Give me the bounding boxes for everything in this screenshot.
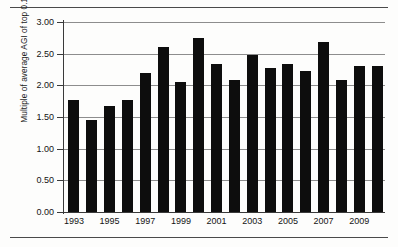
gridline xyxy=(64,212,385,213)
bar xyxy=(193,38,204,212)
y-axis-tick xyxy=(57,149,64,150)
y-axis-tick-label: 0.50 xyxy=(16,175,54,185)
x-axis-tick-label: 1995 xyxy=(93,216,127,226)
bar xyxy=(211,64,222,212)
x-axis-tick-label: 2009 xyxy=(342,216,376,226)
gridline xyxy=(64,22,385,23)
plot-area xyxy=(64,22,385,212)
bar xyxy=(104,106,115,212)
x-axis-tick-label: 1993 xyxy=(57,216,91,226)
x-axis-tick-label: 1999 xyxy=(164,216,198,226)
x-axis-tick-label: 2007 xyxy=(307,216,341,226)
x-axis-tick-label: 2001 xyxy=(200,216,234,226)
bar xyxy=(372,66,383,212)
bar xyxy=(282,64,293,212)
y-axis-tick-label: 2.50 xyxy=(16,49,54,59)
bar xyxy=(68,100,79,212)
x-axis-tick-label: 2005 xyxy=(271,216,305,226)
bar xyxy=(318,42,329,212)
y-axis-tick xyxy=(57,54,64,55)
figure-bottom-rule xyxy=(10,237,388,238)
y-axis-tick xyxy=(57,212,64,213)
bar xyxy=(175,82,186,212)
bar xyxy=(122,100,133,212)
bar xyxy=(140,73,151,212)
y-axis-tick-label: 1.00 xyxy=(16,144,54,154)
y-axis-tick xyxy=(57,117,64,118)
x-axis-tick-label: 1997 xyxy=(128,216,162,226)
bar xyxy=(247,55,258,212)
bar xyxy=(336,80,347,212)
bar xyxy=(265,68,276,212)
y-axis-tick-label: 2.00 xyxy=(16,80,54,90)
y-axis-tick-label: 3.00 xyxy=(16,17,54,27)
bar xyxy=(158,47,169,212)
figure-top-rule xyxy=(10,7,388,8)
y-axis-tick-label: 0.00 xyxy=(16,207,54,217)
gridline xyxy=(64,54,385,55)
x-axis-tick-label: 2003 xyxy=(235,216,269,226)
bar xyxy=(86,120,97,212)
chart-figure: Multiple of average AGI of top 0.1% 0.00… xyxy=(0,0,398,247)
y-axis-tick xyxy=(57,22,64,23)
bar xyxy=(300,71,311,212)
y-axis-tick-label: 1.50 xyxy=(16,112,54,122)
y-axis-tick xyxy=(57,85,64,86)
y-axis-tick xyxy=(57,180,64,181)
bar xyxy=(229,80,240,212)
bar xyxy=(354,66,365,212)
